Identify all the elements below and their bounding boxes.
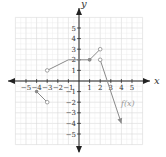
svg-text:−5: −5 <box>66 131 76 139</box>
svg-text:−3: −3 <box>42 84 52 92</box>
x-axis-label: x <box>154 75 160 86</box>
svg-text:4: 4 <box>72 35 77 43</box>
svg-text:−4: −4 <box>66 120 77 128</box>
svg-text:−3: −3 <box>66 109 76 117</box>
y-axis-label: y <box>80 0 87 9</box>
svg-text:2: 2 <box>72 56 76 64</box>
svg-text:−1: −1 <box>66 88 76 96</box>
svg-text:5: 5 <box>130 84 134 92</box>
svg-text:−5: −5 <box>21 84 31 92</box>
svg-text:3: 3 <box>72 46 76 54</box>
svg-text:2: 2 <box>98 84 102 92</box>
function-label: f(x) <box>120 99 135 108</box>
axes <box>8 8 150 153</box>
svg-text:−2: −2 <box>66 99 76 107</box>
function-graph: −5−4−3−2−11234554321−1−2−3−4−5 x y f(x) <box>0 0 166 157</box>
svg-text:−2: −2 <box>53 84 63 92</box>
svg-text:5: 5 <box>72 25 76 33</box>
svg-text:1: 1 <box>87 84 91 92</box>
svg-text:1: 1 <box>72 67 76 75</box>
svg-text:4: 4 <box>119 84 124 92</box>
